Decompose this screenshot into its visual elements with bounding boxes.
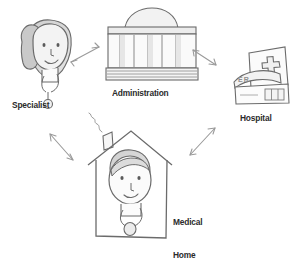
house-chimney xyxy=(103,132,113,150)
specialist-eye-left xyxy=(43,43,46,47)
house-chimney-smoke xyxy=(89,113,102,132)
node-administration[interactable] xyxy=(106,8,198,80)
node-medical-home[interactable] xyxy=(88,113,172,238)
administration-column-shade-3 xyxy=(176,35,181,67)
connector-medical-home-specialist xyxy=(50,134,73,160)
medical-home-stethoscope-chestpiece xyxy=(124,223,136,236)
medical-home-doctor-collar xyxy=(121,203,141,216)
hospital-er-sign-text: ER xyxy=(238,76,250,83)
connector-hospital-medical-home xyxy=(190,128,215,155)
label-medical-home-line2: Home xyxy=(173,249,202,260)
label-administration: Administration xyxy=(112,87,169,98)
medical-home-doctor-eye-right xyxy=(137,176,140,180)
node-hospital[interactable]: ER xyxy=(234,47,289,104)
label-specialist: Specialist xyxy=(12,99,49,110)
specialist-collar xyxy=(42,68,58,82)
label-hospital: Hospital xyxy=(240,112,272,123)
administration-entablature xyxy=(108,27,196,34)
administration-dome xyxy=(125,8,178,28)
node-specialist[interactable] xyxy=(21,20,71,109)
administration-column-shade-2 xyxy=(148,35,153,67)
hospital-window-group xyxy=(265,89,284,100)
label-medical-home-line1: Medical xyxy=(173,216,202,227)
connector-specialist-administration xyxy=(71,43,99,66)
administration-column-shade-1 xyxy=(120,35,125,67)
specialist-eye-right xyxy=(57,43,60,47)
medical-home-doctor-eye-left xyxy=(120,176,123,180)
specialist-face xyxy=(33,24,68,70)
label-medical-home: Medical Home xyxy=(173,194,202,262)
